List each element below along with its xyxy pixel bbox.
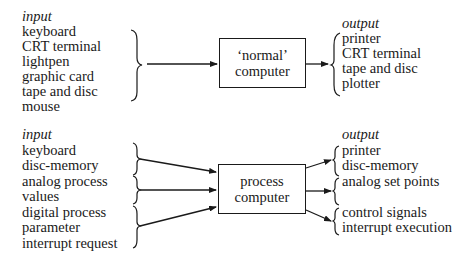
bottom-output-brace-1 — [333, 146, 339, 176]
top-input-item: lightpen — [22, 54, 70, 69]
top-input-item: graphic card — [22, 69, 94, 84]
bottom-input-arrow-1 — [140, 159, 216, 172]
bottom-output-arrow-3 — [306, 210, 331, 221]
process-computer-box: process computer — [218, 164, 306, 214]
top-input-item: keyboard — [22, 24, 76, 39]
bottom-output-arrow-1 — [306, 160, 331, 168]
bottom-input-item: parameter — [22, 220, 80, 235]
bottom-input-brace-3 — [133, 206, 140, 248]
top-output-item: plotter — [342, 76, 380, 91]
bottom-output-item: disc-memory — [342, 158, 419, 173]
bottom-output-item: interrupt execution — [342, 220, 452, 235]
bottom-input-item: interrupt request — [22, 236, 117, 251]
bottom-output-item: control signals — [342, 205, 427, 220]
bottom-input-item: keyboard — [22, 143, 76, 158]
top-output-brace — [331, 33, 340, 96]
top-input-item: mouse — [22, 99, 60, 114]
bottom-output-brace-2 — [333, 178, 339, 205]
box-label-line2: computer — [235, 63, 290, 79]
top-input-item: tape and disc — [22, 84, 98, 99]
bottom-input-item: disc-memory — [22, 158, 99, 173]
bottom-input-heading: input — [22, 127, 52, 142]
top-input-item: CRT terminal — [22, 39, 101, 54]
bottom-input-brace-2 — [133, 176, 140, 204]
top-output-item: tape and disc — [342, 61, 418, 76]
bottom-output-brace-3 — [333, 208, 339, 235]
box-label-line1: process — [240, 173, 284, 189]
bottom-output-item: analog set points — [342, 174, 439, 189]
box-label-line2: computer — [235, 189, 290, 205]
box-label-line1: ‘normal’ — [237, 47, 288, 63]
top-input-brace — [131, 30, 142, 101]
normal-computer-box: ‘normal’ computer — [219, 38, 306, 88]
bottom-output-heading: output — [342, 127, 379, 142]
bottom-input-brace-1 — [133, 143, 140, 175]
bottom-input-item: values — [22, 189, 59, 204]
bottom-input-arrow-3 — [140, 207, 216, 226]
top-input-heading: input — [22, 9, 52, 24]
top-output-heading: output — [342, 16, 379, 31]
top-output-item: printer — [342, 31, 381, 46]
bottom-output-item: printer — [342, 143, 381, 158]
bottom-input-item: analog process — [22, 174, 108, 189]
top-output-item: CRT terminal — [342, 46, 421, 61]
bottom-input-item: digital process — [22, 205, 106, 220]
